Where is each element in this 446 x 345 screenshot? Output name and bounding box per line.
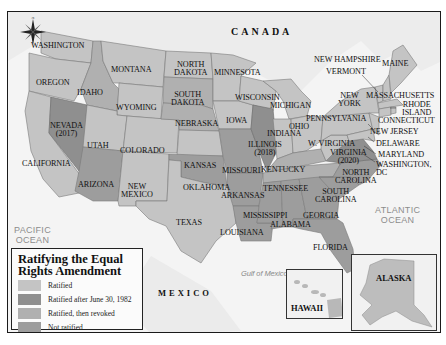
alaska-inset: ALASKA	[351, 254, 437, 331]
legend-swatch	[18, 308, 41, 319]
legend-swatch	[18, 322, 41, 333]
legend-item-ratified-after-1982: Ratified after June 30, 1982	[18, 294, 136, 305]
hawaii-inset: HAWAII	[286, 269, 343, 319]
legend: Ratifying the EqualRights Amendment Rati…	[11, 248, 143, 330]
legend-item-not-ratified: Not ratified	[18, 322, 136, 333]
label-hawaii: HAWAII	[291, 303, 323, 313]
legend-item-ratified: Ratified	[18, 280, 136, 291]
label-alaska: ALASKA	[376, 273, 411, 283]
legend-item-ratified-then-revoked: Ratified, then revoked	[18, 308, 136, 319]
legend-swatch	[18, 280, 41, 291]
legend-title: Ratifying the EqualRights Amendment	[18, 253, 136, 277]
alaska-shape	[352, 255, 437, 331]
legend-swatch	[18, 294, 41, 305]
map-frame: N CANADA MEXICO PACIFICOCEAN ATLANTICOCE…	[7, 11, 441, 333]
